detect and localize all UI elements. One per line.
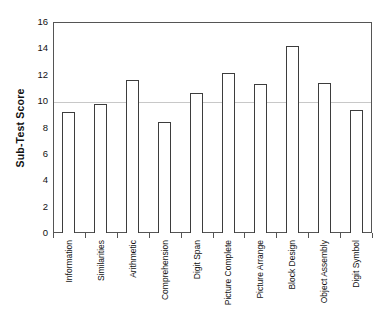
bar-block-design[interactable] [286,46,299,233]
bar-comprehension[interactable] [158,122,171,233]
x-label-information: Information [65,240,74,283]
x-label-slot: Similarities [85,240,117,320]
bar-chart: Sub-Test Score 0246810121416 Information… [0,0,382,322]
y-tick-label: 2 [14,202,48,212]
x-tick-mark [340,233,341,238]
x-tick-mark [85,233,86,238]
x-tick-mark [276,233,277,238]
y-tick-label: 8 [14,123,48,133]
x-label-slot: Arithmetic [117,240,149,320]
x-tick-mark [117,233,118,238]
x-tick-mark [308,233,309,238]
bar-slot [149,22,181,233]
y-tick-label: 16 [14,17,48,27]
x-label-slot: Digit Symbol [340,240,372,320]
bar-picture-complete[interactable] [222,73,235,233]
x-label-slot: Information [53,240,85,320]
bar-slot [308,22,340,233]
x-label-similarities: Similarities [97,240,106,281]
x-tick-mark [181,233,182,238]
y-tick-label: 14 [14,44,48,54]
y-tick-label: 0 [14,228,48,238]
x-axis-tick-marks [53,233,372,238]
bar-information[interactable] [62,112,75,233]
x-label-slot: Object Assembly [308,240,340,320]
bar-digit-symbol[interactable] [350,110,363,233]
y-tick-label: 4 [14,176,48,186]
bar-slot [117,22,149,233]
x-label-slot: Comprehension [149,240,181,320]
x-label-picture-arrange: Picture Arrange [256,240,265,299]
bar-slot [85,22,117,233]
x-label-picture-complete: Picture Complete [224,240,233,305]
x-label-slot: Block Design [276,240,308,320]
bar-similarities[interactable] [94,104,107,233]
bar-slot [53,22,85,233]
x-label-digit-symbol: Digit Symbol [352,240,361,288]
x-label-slot: Picture Complete [213,240,245,320]
x-tick-mark [372,233,373,238]
x-label-digit-span: Digit Span [192,240,201,279]
x-tick-mark [53,233,54,238]
y-tick-label: 6 [14,149,48,159]
x-label-arithmetic: Arithmetic [129,240,138,278]
x-label-block-design: Block Design [288,240,297,290]
x-label-slot: Digit Span [181,240,213,320]
y-tick-label: 12 [14,70,48,80]
bar-slot [213,22,245,233]
x-label-comprehension: Comprehension [160,240,169,300]
x-label-slot: Picture Arrange [244,240,276,320]
bar-digit-span[interactable] [190,93,203,233]
bar-object-assembly[interactable] [318,83,331,233]
bar-arithmetic[interactable] [126,80,139,233]
x-tick-mark [244,233,245,238]
x-axis-tick-labels: InformationSimilaritiesArithmeticCompreh… [53,240,372,320]
bar-slot [244,22,276,233]
x-tick-mark [149,233,150,238]
bar-slot [276,22,308,233]
x-tick-mark [213,233,214,238]
bar-series [53,22,372,233]
bar-picture-arrange[interactable] [254,84,267,233]
x-label-object-assembly: Object Assembly [320,240,329,303]
y-tick-label: 10 [14,96,48,106]
bar-slot [181,22,213,233]
bar-slot [340,22,372,233]
